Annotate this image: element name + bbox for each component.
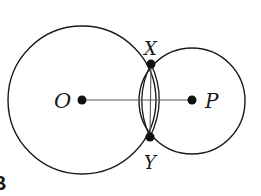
label-X: X [142, 38, 158, 59]
point-Y [146, 133, 155, 142]
point-O [78, 96, 87, 105]
label-O: O [54, 89, 71, 113]
label-P: P [204, 89, 219, 113]
point-X [147, 60, 156, 69]
label-Y: Y [144, 152, 158, 173]
figure-label: B [0, 172, 6, 194]
two-intersecting-circles-diagram: O P X Y B [0, 0, 261, 196]
point-P [188, 96, 197, 105]
